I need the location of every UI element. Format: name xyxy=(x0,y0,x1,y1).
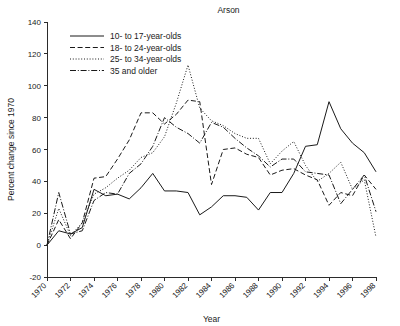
legend-label-3: 25- to 34-year-olds xyxy=(110,54,181,64)
series-line-2 xyxy=(47,100,376,245)
legend-label-1: 10- to 17-year-olds xyxy=(110,31,181,41)
axes-group xyxy=(44,22,377,281)
arson-line-chart: Arson -20020406080100120140 197019721974… xyxy=(0,0,400,326)
x-tick-label: 1988 xyxy=(241,281,260,300)
y-tick-label: 120 xyxy=(28,50,42,59)
y-axis-title: Percent change since 1970 xyxy=(6,98,16,201)
y-tick-label: 0 xyxy=(37,241,42,250)
x-tick-label: 1990 xyxy=(264,281,283,300)
x-axis-title: Year xyxy=(203,314,220,324)
legend-label-2: 18- to 24-year-olds xyxy=(110,43,181,53)
x-tick-label: 1978 xyxy=(123,281,142,300)
data-series-group xyxy=(47,65,376,245)
x-tick-label: 1974 xyxy=(76,281,95,300)
y-tick-labels: -20020406080100120140 xyxy=(28,18,42,282)
x-tick-label: 1980 xyxy=(147,281,166,300)
y-tick-label: 80 xyxy=(32,114,41,123)
x-tick-label: 1996 xyxy=(335,281,354,300)
x-tick-label: 1998 xyxy=(358,281,377,300)
series-line-3 xyxy=(47,65,376,245)
y-tick-label: -20 xyxy=(29,273,41,282)
legend-label-4: 35 and older xyxy=(110,66,157,76)
x-tick-label: 1994 xyxy=(311,281,330,300)
y-tick-label: 20 xyxy=(32,209,41,218)
chart-title-group: Arson xyxy=(217,5,239,15)
x-tick-label: 1984 xyxy=(194,281,213,300)
x-tick-label: 1982 xyxy=(170,281,189,300)
y-tick-label: 60 xyxy=(32,146,41,155)
chart-figure: Arson -20020406080100120140 197019721974… xyxy=(0,0,400,326)
x-tick-label: 1976 xyxy=(100,281,119,300)
page-title: Arson xyxy=(217,5,239,15)
x-tick-label: 1986 xyxy=(217,281,236,300)
series-line-1 xyxy=(47,102,376,245)
x-tick-labels: 1970197219741976197819801982198419861988… xyxy=(29,281,377,300)
series-line-4 xyxy=(47,118,376,246)
x-tick-label: 1970 xyxy=(29,281,48,300)
y-tick-label: 40 xyxy=(32,177,41,186)
x-tick-label: 1972 xyxy=(53,281,72,300)
y-tick-label: 100 xyxy=(28,82,42,91)
x-tick-label: 1992 xyxy=(288,281,307,300)
chart-legend: 10- to 17-year-olds18- to 24-year-olds25… xyxy=(70,31,181,76)
y-tick-label: 140 xyxy=(28,18,42,27)
